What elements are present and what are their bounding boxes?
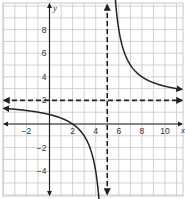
x-tick-label: −2: [22, 126, 32, 136]
y-tick-label: 2: [42, 95, 47, 105]
y-tick-label: −4: [37, 166, 47, 176]
y-tick-label: 8: [42, 25, 47, 35]
x-tick-label: 8: [140, 126, 145, 136]
x-tick-label: 6: [116, 126, 121, 136]
y-tick-label: 4: [42, 72, 47, 82]
y-tick-label: 6: [42, 48, 47, 58]
x-tick-label: 4: [93, 126, 98, 136]
grid-border: [3, 3, 183, 196]
y-tick-label: −2: [37, 143, 47, 153]
x-tick-label: 10: [160, 126, 170, 136]
rational-function-graph: −22468108642−2−4 x y: [0, 0, 185, 199]
x-axis-label: x: [180, 125, 185, 135]
y-axis-label: y: [52, 3, 57, 13]
x-tick-label: 2: [70, 126, 75, 136]
grid: [3, 3, 183, 196]
